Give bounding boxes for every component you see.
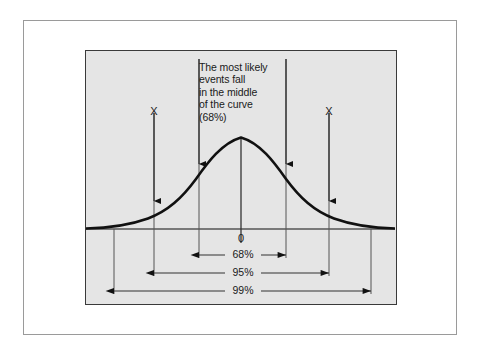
left-x-label: X [147, 105, 161, 117]
interval-label-68: 68% [225, 248, 261, 260]
mean-zero-label: 0 [234, 232, 248, 244]
page-root: The most likely events fall in the middl… [0, 0, 480, 358]
right-x-label: X [322, 105, 336, 117]
annotation-text: The most likely events fall in the middl… [199, 61, 303, 123]
figure-panel: The most likely events fall in the middl… [85, 50, 397, 305]
interval-label-95: 95% [225, 266, 261, 278]
interval-label-99: 99% [225, 284, 261, 296]
